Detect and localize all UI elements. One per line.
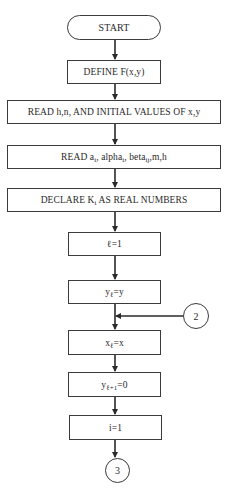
text-part: ,m,h (150, 152, 167, 162)
connector-2-label: 2 (194, 311, 199, 322)
declare-label: DECLARE Ki AS REAL NUMBERS (41, 195, 188, 205)
flowchart: START DEFINE F(x,y) READ h,n, AND INITIA… (0, 0, 238, 491)
text-part: =y (114, 287, 124, 297)
define-function-label: DEFINE F(x,y) (84, 67, 145, 77)
connector-2: 2 (183, 303, 209, 329)
subscript: ℓ+1 (106, 384, 117, 392)
y-l-assign-box: yℓ=y (68, 280, 161, 304)
text-part: DECLARE K (41, 195, 95, 205)
x-l-assign-box: xℓ=x (68, 330, 161, 355)
start-terminal: START (67, 15, 161, 40)
i-init-label: i=1 (109, 423, 122, 433)
y-l-plus-1-assign-label: yℓ+1=0 (101, 380, 127, 390)
start-label: START (99, 22, 130, 33)
read-parameters-label: READ ai, alphai, betaij,m,h (61, 152, 167, 162)
i-init-box: i=1 (69, 415, 162, 440)
declare-box: DECLARE Ki AS REAL NUMBERS (7, 188, 221, 212)
read-initial-values-box: READ h,n, AND INITIAL VALUES OF x,y (7, 100, 221, 124)
text-part: READ a (61, 152, 94, 162)
text-part: , alpha (96, 152, 122, 162)
define-function-box: DEFINE F(x,y) (67, 60, 161, 84)
l-init-box: ℓ=1 (68, 232, 161, 256)
text-part: AS REAL NUMBERS (97, 195, 188, 205)
connector-3: 3 (105, 458, 130, 483)
read-parameters-box: READ ai, alphai, betaij,m,h (7, 145, 221, 169)
text-part: =x (114, 338, 124, 348)
text-part: , beta (124, 152, 145, 162)
y-l-plus-1-assign-box: yℓ+1=0 (68, 372, 161, 397)
connector-3-label: 3 (115, 465, 120, 476)
read-initial-values-label: READ h,n, AND INITIAL VALUES OF x,y (28, 107, 200, 117)
text-part: =0 (117, 380, 127, 390)
l-init-label: ℓ=1 (107, 239, 122, 249)
x-l-assign-label: xℓ=x (105, 338, 124, 348)
y-l-assign-label: yℓ=y (105, 287, 124, 297)
